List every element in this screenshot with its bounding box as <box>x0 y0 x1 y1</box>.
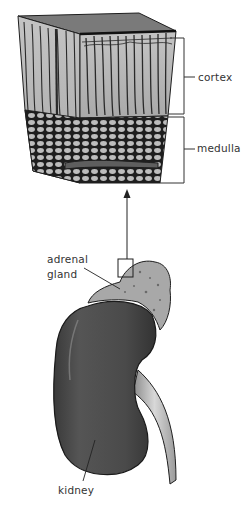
magnification-arrow <box>124 189 131 259</box>
kidney-label: kidney <box>58 484 94 496</box>
block-medulla <box>25 110 168 183</box>
adrenal-label-line1: adrenal <box>47 252 88 267</box>
tissue-block <box>18 13 176 183</box>
cortex-label: cortex <box>198 71 232 83</box>
adrenal-label-line2: gland <box>47 267 88 282</box>
adrenal-leader <box>84 268 120 289</box>
adrenal-gland-label: adrenal gland <box>47 252 88 282</box>
medulla-label: medulla <box>197 142 241 154</box>
